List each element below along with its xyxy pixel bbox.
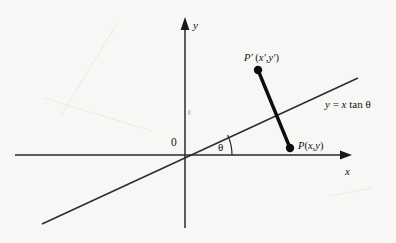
eq-tan: tan (349, 98, 362, 110)
y-axis-speck (188, 110, 191, 115)
x-axis-label: x (345, 166, 350, 177)
origin-label: 0 (171, 137, 177, 149)
point-p-prime-dot (254, 66, 262, 74)
point-p-dot (286, 144, 294, 152)
paper-grain (0, 0, 396, 243)
eq-theta: θ (365, 98, 370, 110)
p-close-paren: ) (320, 140, 324, 151)
p-prime-close-paren: ) (275, 52, 279, 63)
point-p-prime-label: P′ (x′,y′) (244, 53, 279, 64)
geometry-figure: y x 0 θ P′ (x′,y′) P(x,y) y = x tan θ (0, 0, 396, 243)
angle-theta-label: θ (218, 142, 223, 153)
diagram-canvas (0, 0, 396, 243)
mirror-line-label: y = x tan θ (325, 99, 371, 110)
point-p-label: P(x,y) (298, 141, 323, 152)
y-axis-label: y (193, 20, 198, 31)
